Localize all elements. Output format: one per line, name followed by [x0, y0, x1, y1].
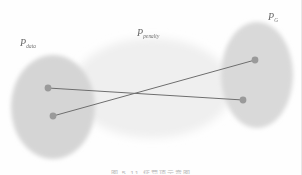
page-edge-rule — [301, 0, 302, 175]
p-data-region — [11, 55, 95, 159]
figure-caption: 图 5-11 惩罚项示意图 — [0, 168, 302, 174]
label-p-data: Pdata — [20, 32, 36, 50]
p-g-sample-1 — [252, 57, 259, 64]
p-g-region — [221, 22, 293, 128]
label-p-penalty: Ppenalty — [137, 22, 159, 40]
label-p-g-subscript: G — [274, 17, 278, 23]
label-p-data-subscript: data — [26, 43, 36, 49]
p-penalty-region — [72, 38, 232, 138]
label-p-g: PG — [268, 6, 278, 24]
p-data-sample-2 — [50, 113, 57, 120]
figure-canvas: Pdata Ppenalty PG 图 5-11 惩罚项示意图 — [0, 0, 302, 175]
p-g-sample-2 — [240, 97, 247, 104]
label-p-penalty-subscript: penalty — [143, 33, 159, 39]
p-data-sample-1 — [45, 85, 52, 92]
